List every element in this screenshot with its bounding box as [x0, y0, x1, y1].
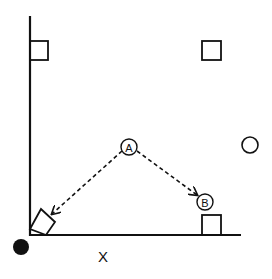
diagram-canvas: A B X	[0, 0, 272, 279]
arrow-a-to-rotated-square	[52, 151, 122, 214]
square-top-left	[30, 41, 48, 60]
square-bottom-right	[202, 215, 221, 235]
circle-right	[242, 137, 258, 153]
node-b: B	[197, 194, 213, 210]
arrow-a-to-b	[137, 151, 197, 195]
node-a-label: A	[125, 142, 133, 154]
diagram-svg: A B X	[0, 0, 272, 279]
node-b-label: B	[201, 197, 208, 209]
x-axis-label: X	[98, 248, 108, 265]
dot-origin	[13, 239, 29, 255]
node-a: A	[121, 139, 137, 155]
square-rotated-origin	[30, 209, 55, 235]
square-top-right	[202, 41, 221, 60]
